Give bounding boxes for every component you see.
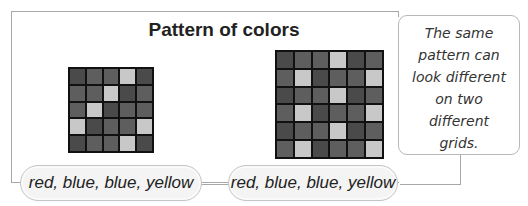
- grid-cell-red: [70, 69, 85, 84]
- callout-connector: [460, 155, 461, 185]
- grid-cell-red: [120, 86, 135, 101]
- grid-cell-red: [87, 119, 102, 134]
- grid-cell-red: [313, 105, 329, 121]
- grid-5x5: [68, 67, 154, 153]
- grid-cell-blue: [120, 119, 135, 134]
- grid-cell-yellow: [330, 52, 346, 68]
- grid-cell-yellow: [120, 69, 135, 84]
- grid-cell-blue: [348, 141, 364, 157]
- grid-cell-blue: [87, 86, 102, 101]
- grid-cell-yellow: [87, 103, 102, 118]
- grid-cell-yellow: [295, 70, 311, 86]
- grid-cell-red: [348, 88, 364, 104]
- grid-cell-blue: [87, 69, 102, 84]
- grid-cell-yellow: [137, 119, 152, 134]
- grid-cell-yellow: [330, 88, 346, 104]
- grid-cell-blue: [330, 141, 346, 157]
- grid-cell-yellow: [104, 86, 119, 101]
- grid-cell-blue: [277, 141, 293, 157]
- pattern-label-right: red, blue, blue, yellow: [228, 165, 398, 201]
- grid-cell-blue: [120, 103, 135, 118]
- grid-cell-blue: [295, 123, 311, 139]
- grid-cell-yellow: [366, 70, 382, 86]
- grid-cell-blue: [348, 105, 364, 121]
- grid-cell-yellow: [295, 105, 311, 121]
- pattern-label-text: red, blue, blue, yellow: [29, 173, 193, 193]
- grid-cell-blue: [330, 70, 346, 86]
- callout-line: different: [403, 110, 515, 132]
- grid-cell-red: [104, 103, 119, 118]
- pattern-label-text: red, blue, blue, yellow: [231, 173, 395, 193]
- grid-cell-yellow: [366, 141, 382, 157]
- callout-line: look different: [403, 66, 515, 88]
- grid-cell-yellow: [295, 141, 311, 157]
- grid-cell-red: [313, 70, 329, 86]
- grid-cell-yellow: [70, 119, 85, 134]
- grid-cell-blue: [137, 103, 152, 118]
- grid-cell-blue: [104, 136, 119, 151]
- callout-note: The same pattern can look different on t…: [398, 15, 520, 155]
- grid-cell-blue: [104, 69, 119, 84]
- grid-cell-blue: [313, 88, 329, 104]
- grid-cell-blue: [137, 86, 152, 101]
- grid-cell-red: [70, 136, 85, 151]
- grid-cell-yellow: [120, 136, 135, 151]
- grid-cell-red: [277, 52, 293, 68]
- grid-cell-blue: [277, 105, 293, 121]
- callout-line: pattern can: [403, 44, 515, 66]
- grid-cell-yellow: [330, 123, 346, 139]
- grid-cell-red: [137, 136, 152, 151]
- grid-cell-blue: [70, 86, 85, 101]
- grid-cell-blue: [366, 52, 382, 68]
- grid-cell-yellow: [366, 105, 382, 121]
- grid-cell-blue: [277, 70, 293, 86]
- grid-cell-blue: [87, 136, 102, 151]
- grid-cell-blue: [104, 119, 119, 134]
- frame-edge: [398, 11, 399, 17]
- grid-cell-red: [313, 141, 329, 157]
- grid-cell-blue: [295, 52, 311, 68]
- grid-cell-red: [348, 123, 364, 139]
- grid-6x6: [275, 50, 384, 159]
- grid-cell-red: [277, 88, 293, 104]
- pattern-label-left: red, blue, blue, yellow: [20, 165, 202, 201]
- callout-line: The same: [403, 22, 515, 44]
- callout-connector: [400, 184, 461, 185]
- grid-cell-blue: [366, 123, 382, 139]
- grid-cell-red: [137, 69, 152, 84]
- grid-cell-blue: [313, 123, 329, 139]
- grid-cell-blue: [348, 70, 364, 86]
- callout-line: grids.: [403, 132, 515, 154]
- grid-cell-blue: [366, 88, 382, 104]
- grid-cell-red: [348, 52, 364, 68]
- callout-line: on two: [403, 88, 515, 110]
- grid-cell-blue: [70, 103, 85, 118]
- grid-cell-blue: [295, 88, 311, 104]
- label-connector: [201, 184, 229, 185]
- grid-cell-red: [277, 123, 293, 139]
- grid-cell-blue: [330, 105, 346, 121]
- grid-cell-blue: [313, 52, 329, 68]
